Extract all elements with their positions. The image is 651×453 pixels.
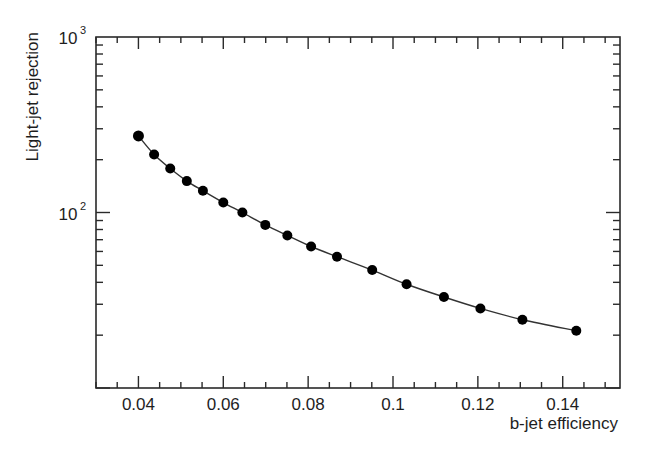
data-point-marker — [237, 208, 247, 218]
x-tick-label: 0.1 — [381, 395, 405, 414]
data-point-marker — [260, 220, 270, 230]
data-point-marker — [218, 198, 228, 208]
x-axis-ticks — [96, 37, 605, 388]
data-point-marker — [402, 279, 412, 289]
data-point-marker — [165, 164, 175, 174]
data-point-marker — [282, 230, 292, 240]
x-axis-label: b-jet efficiency — [510, 414, 619, 433]
chart: 0.040.060.080.10.120.14 102103 b-jet eff… — [0, 0, 651, 453]
x-tick-label: 0.04 — [122, 395, 155, 414]
y-tick-label-base: 10 — [59, 29, 78, 48]
y-tick-label: 103 — [59, 24, 87, 48]
y-axis-label: Light-jet rejection — [23, 32, 42, 161]
y-axis-ticks — [96, 45, 620, 388]
y-tick-label: 102 — [59, 200, 87, 224]
x-axis-tick-labels: 0.040.060.080.10.120.14 — [122, 395, 579, 414]
x-tick-label: 0.12 — [461, 395, 494, 414]
y-tick-label-exponent: 2 — [80, 200, 86, 212]
data-point-marker — [571, 326, 581, 336]
data-point-marker — [306, 242, 316, 252]
y-axis-tick-labels: 102103 — [59, 24, 87, 224]
data-point-marker — [198, 186, 208, 196]
y-tick-label-base: 10 — [59, 205, 78, 224]
data-point-marker — [133, 130, 144, 141]
data-point-marker — [517, 315, 527, 325]
plot-area: 0.040.060.080.10.120.14 102103 b-jet eff… — [0, 0, 651, 453]
data-point-marker — [182, 176, 192, 186]
x-tick-label: 0.14 — [546, 395, 579, 414]
x-tick-label: 0.06 — [207, 395, 240, 414]
y-tick-label-exponent: 3 — [80, 24, 86, 36]
data-point-marker — [367, 265, 377, 275]
data-point-marker — [439, 292, 449, 302]
data-point-marker — [332, 252, 342, 262]
data-series — [133, 130, 581, 335]
data-point-marker — [149, 150, 159, 160]
x-tick-label: 0.08 — [292, 395, 325, 414]
plot-frame — [96, 37, 620, 388]
fit-curve — [138, 136, 576, 331]
axes-box — [96, 37, 620, 388]
data-point-marker — [475, 303, 485, 313]
